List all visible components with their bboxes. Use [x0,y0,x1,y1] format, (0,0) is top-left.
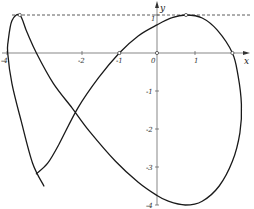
y-tick-label: -3 [146,164,153,172]
x-tick-label: -4 [1,57,8,65]
y-axis-arrow-icon [155,1,159,8]
x-axis-label: x [244,56,249,66]
y-tick-label: -1 [146,88,153,96]
origin-label: 0 [151,57,156,65]
marked-points [18,13,234,54]
marked-point [18,13,21,16]
y-tick-label: -2 [146,126,153,134]
marked-point [184,13,187,16]
x-axis-arrow-icon [243,51,250,55]
marked-point [231,51,234,54]
y-tick-label: 1 [151,15,155,23]
plot-area: -4 -2 -1 0 1 1 -1 -2 -3 -4 y x [0,0,254,209]
parametric-curve [7,14,241,205]
x-tick-label: 1 [194,57,198,65]
marked-point [155,51,158,54]
y-tick-label: -4 [146,202,153,209]
x-tick-label: -1 [116,57,123,65]
y-axis-label: y [159,3,166,13]
x-tick-label: -2 [78,57,85,65]
marked-point [118,51,121,54]
